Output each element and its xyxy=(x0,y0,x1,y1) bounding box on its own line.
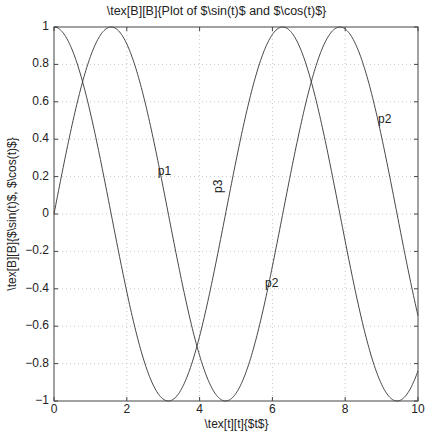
plot-canvas xyxy=(0,0,433,435)
y-tick-label: −0.2 xyxy=(9,243,49,257)
y-tick-label: 0.4 xyxy=(9,131,49,145)
sin-curve xyxy=(54,27,418,401)
annotation-p2: p2 xyxy=(265,276,278,290)
y-tick-label: −0.8 xyxy=(9,356,49,370)
annotation-p3: p3 xyxy=(211,180,225,193)
x-tick-label: 10 xyxy=(403,402,433,416)
curves xyxy=(54,27,418,401)
annotation-p1: p1 xyxy=(158,164,171,178)
axes-box xyxy=(54,27,418,401)
y-tick-label: 0.8 xyxy=(9,56,49,70)
chart-title: \tex[B][B]{Plot of $\sin(t)$ and $\cos(t… xyxy=(0,4,433,18)
grid-lines xyxy=(54,27,418,401)
x-tick-label: 6 xyxy=(257,402,287,416)
y-tick-label: 0 xyxy=(9,206,49,220)
y-tick-label: −0.4 xyxy=(9,281,49,295)
tick-marks xyxy=(54,27,418,401)
annotation-p2: p2 xyxy=(378,112,391,126)
y-tick-label: 1 xyxy=(9,19,49,33)
x-tick-label: 4 xyxy=(185,402,215,416)
y-tick-label: −0.6 xyxy=(9,318,49,332)
x-tick-label: 8 xyxy=(330,402,360,416)
y-tick-label: 0.2 xyxy=(9,169,49,183)
x-tick-label: 0 xyxy=(39,402,69,416)
cos-curve xyxy=(54,27,418,401)
x-axis-label: \tex[t][t]{$t$} xyxy=(54,417,419,431)
y-tick-label: 0.6 xyxy=(9,94,49,108)
x-tick-label: 2 xyxy=(112,402,142,416)
